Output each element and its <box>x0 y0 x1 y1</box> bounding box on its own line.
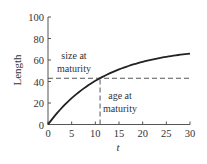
x-tick-label: 10 <box>90 128 101 139</box>
x-tick-label: 25 <box>161 128 172 139</box>
x-tick-label: 0 <box>45 128 50 139</box>
y-tick-label: 20 <box>34 98 45 109</box>
axes: 051015202530020406080100 <box>28 12 195 139</box>
age-at-maturity-label-1: age at <box>108 90 132 101</box>
y-tick-label: 60 <box>34 55 45 66</box>
growth-chart: 051015202530020406080100 size at maturit… <box>0 0 207 164</box>
age-at-maturity-label-2: maturity <box>103 103 137 114</box>
y-axis-title: Length <box>11 54 23 86</box>
y-tick-label: 80 <box>34 34 45 45</box>
size-at-maturity-label-2: maturity <box>57 63 91 74</box>
y-tick-label: 40 <box>34 77 45 88</box>
y-tick-label: 0 <box>39 120 44 131</box>
x-tick-label: 20 <box>137 128 148 139</box>
y-tick-label: 100 <box>28 12 44 23</box>
size-at-maturity-label-1: size at <box>61 50 86 61</box>
x-axis-title: t <box>116 141 120 153</box>
x-tick-label: 15 <box>114 128 125 139</box>
x-tick-label: 30 <box>185 128 196 139</box>
x-tick-label: 5 <box>69 128 74 139</box>
